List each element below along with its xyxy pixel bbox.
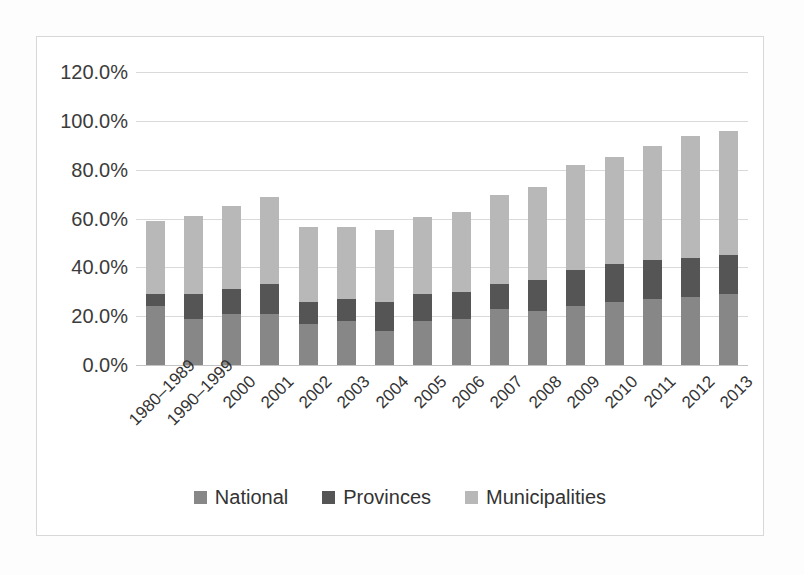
legend-swatch-icon — [194, 491, 207, 504]
bar-segment-provinces[interactable] — [146, 294, 165, 306]
legend-swatch-icon — [465, 491, 478, 504]
legend-swatch-icon — [322, 491, 335, 504]
bar-segment-national[interactable] — [260, 314, 279, 365]
bar-segment-municipalities[interactable] — [222, 206, 241, 289]
bar-segment-provinces[interactable] — [337, 299, 356, 321]
bar-segment-provinces[interactable] — [528, 280, 547, 312]
bar-group[interactable] — [337, 72, 356, 365]
bar-segment-provinces[interactable] — [260, 284, 279, 313]
bar-group[interactable] — [528, 72, 547, 365]
bar-segment-provinces[interactable] — [566, 270, 585, 307]
bar-segment-municipalities[interactable] — [528, 187, 547, 280]
bar-segment-municipalities[interactable] — [184, 216, 203, 294]
chart-legend: NationalProvincesMunicipalities — [36, 486, 764, 509]
bar-segment-provinces[interactable] — [605, 264, 624, 302]
legend-entry[interactable]: National — [194, 486, 288, 509]
chart-figure: 0.0%20.0%40.0%60.0%80.0%100.0%120.0% 198… — [0, 0, 804, 575]
bar-segment-national[interactable] — [413, 321, 432, 365]
bar-segment-provinces[interactable] — [643, 260, 662, 299]
bar-segment-municipalities[interactable] — [490, 195, 509, 284]
bar-group[interactable] — [184, 72, 203, 365]
bar-segment-municipalities[interactable] — [452, 212, 471, 291]
bar-group[interactable] — [719, 72, 738, 365]
legend-label: Provinces — [343, 486, 431, 509]
legend-entry[interactable]: Provinces — [322, 486, 431, 509]
bar-group[interactable] — [299, 72, 318, 365]
bar-segment-provinces[interactable] — [490, 284, 509, 308]
bar-group[interactable] — [260, 72, 279, 365]
bar-segment-national[interactable] — [643, 299, 662, 365]
bar-segment-municipalities[interactable] — [260, 197, 279, 285]
bar-group[interactable] — [146, 72, 165, 365]
bar-segment-national[interactable] — [452, 319, 471, 365]
bar-group[interactable] — [566, 72, 585, 365]
legend-label: National — [215, 486, 288, 509]
bar-group[interactable] — [643, 72, 662, 365]
bar-segment-national[interactable] — [299, 324, 318, 366]
y-tick-label: 40.0% — [42, 256, 128, 278]
bar-segment-municipalities[interactable] — [375, 230, 394, 302]
bar-segment-national[interactable] — [146, 306, 165, 365]
bar-segment-national[interactable] — [528, 311, 547, 365]
y-tick-label: 120.0% — [42, 61, 128, 83]
bar-segment-national[interactable] — [605, 302, 624, 365]
bar-segment-national[interactable] — [719, 294, 738, 365]
y-tick-label: 80.0% — [42, 159, 128, 181]
bar-segment-municipalities[interactable] — [413, 217, 432, 294]
bar-segment-national[interactable] — [490, 309, 509, 365]
y-tick-label: 100.0% — [42, 110, 128, 132]
bar-group[interactable] — [222, 72, 241, 365]
bar-group[interactable] — [375, 72, 394, 365]
bar-segment-municipalities[interactable] — [605, 157, 624, 263]
bar-segment-national[interactable] — [337, 321, 356, 365]
bar-group[interactable] — [681, 72, 700, 365]
legend-entry[interactable]: Municipalities — [465, 486, 606, 509]
bar-segment-provinces[interactable] — [299, 302, 318, 324]
bar-segment-national[interactable] — [375, 331, 394, 365]
bar-segment-provinces[interactable] — [413, 294, 432, 321]
legend-label: Municipalities — [486, 486, 606, 509]
bar-segment-municipalities[interactable] — [299, 227, 318, 301]
y-tick-label: 20.0% — [42, 305, 128, 327]
bar-group[interactable] — [605, 72, 624, 365]
y-axis: 0.0%20.0%40.0%60.0%80.0%100.0%120.0% — [42, 50, 128, 387]
bar-segment-provinces[interactable] — [452, 292, 471, 319]
bar-segment-national[interactable] — [566, 306, 585, 365]
bar-segment-provinces[interactable] — [681, 258, 700, 297]
bar-segment-provinces[interactable] — [375, 302, 394, 331]
bar-segment-municipalities[interactable] — [681, 136, 700, 258]
bar-segment-municipalities[interactable] — [566, 165, 585, 270]
bars-layer — [136, 72, 748, 365]
x-axis: 1980–19891990–19992000200120022003200420… — [136, 368, 748, 464]
plot-area — [136, 72, 748, 365]
bar-segment-national[interactable] — [681, 297, 700, 365]
bar-group[interactable] — [413, 72, 432, 365]
bar-segment-provinces[interactable] — [222, 289, 241, 313]
bar-segment-municipalities[interactable] — [643, 146, 662, 260]
bar-segment-municipalities[interactable] — [337, 227, 356, 299]
y-tick-label: 60.0% — [42, 208, 128, 230]
bar-group[interactable] — [490, 72, 509, 365]
bar-segment-municipalities[interactable] — [719, 131, 738, 256]
bar-segment-provinces[interactable] — [184, 294, 203, 318]
bar-group[interactable] — [452, 72, 471, 365]
bar-segment-provinces[interactable] — [719, 255, 738, 294]
bar-segment-municipalities[interactable] — [146, 221, 165, 294]
y-tick-label: 0.0% — [42, 354, 128, 376]
